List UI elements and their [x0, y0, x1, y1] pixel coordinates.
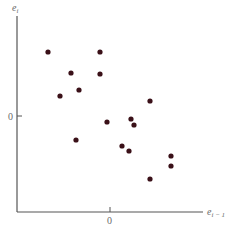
data-points — [45, 49, 173, 181]
scatter-chart: 0 0 ei ei − 1 — [0, 0, 237, 230]
data-point — [147, 98, 152, 103]
data-point — [128, 116, 133, 121]
data-point — [131, 122, 136, 127]
data-point — [119, 143, 124, 148]
data-point — [168, 163, 173, 168]
data-point — [126, 148, 131, 153]
data-point — [147, 176, 152, 181]
x-tick-label: 0 — [107, 215, 112, 226]
y-axis-label: ei — [12, 2, 18, 15]
data-point — [73, 137, 78, 142]
y-tick-label: 0 — [8, 111, 13, 122]
data-point — [68, 70, 73, 75]
data-point — [45, 49, 50, 54]
x-axis-label: ei − 1 — [207, 206, 225, 219]
data-point — [97, 49, 102, 54]
data-point — [57, 93, 62, 98]
data-point — [76, 87, 81, 92]
data-point — [97, 71, 102, 76]
data-point — [104, 119, 109, 124]
data-point — [168, 153, 173, 158]
